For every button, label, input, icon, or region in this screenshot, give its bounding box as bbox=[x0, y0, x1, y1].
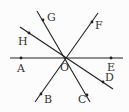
point-f-marker bbox=[91, 21, 94, 24]
point-d-marker bbox=[102, 81, 105, 84]
geometry-diagram: AEGCHDFBO bbox=[0, 0, 129, 112]
point-d-label: D bbox=[105, 71, 114, 84]
point-g-marker bbox=[42, 19, 45, 22]
point-g-label: G bbox=[47, 11, 56, 24]
point-f-label: F bbox=[95, 19, 103, 32]
point-b-label: B bbox=[44, 93, 52, 106]
point-c-label: C bbox=[78, 93, 86, 106]
point-h-marker bbox=[28, 32, 31, 35]
point-b-marker bbox=[40, 93, 43, 96]
point-o-label: O bbox=[60, 61, 69, 74]
point-a-label: A bbox=[16, 62, 26, 75]
point-a-marker bbox=[20, 57, 23, 60]
lines-layer bbox=[10, 11, 123, 102]
point-h-label: H bbox=[18, 35, 28, 48]
point-e-marker bbox=[110, 57, 113, 60]
